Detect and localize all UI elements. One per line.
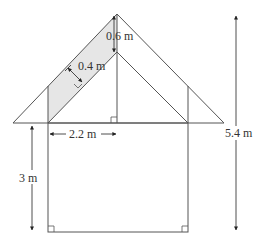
- house-diagram: 0.6 m 0.4 m 2.2 m 3 m 5.4 m: [0, 0, 258, 237]
- label-half-span: 2.2 m: [69, 127, 97, 141]
- label-roof-gap: 0.6 m: [106, 29, 134, 43]
- right-angle-marker-bottom-left: [48, 226, 54, 232]
- label-rafter-width: 0.4 m: [78, 59, 106, 73]
- label-total-height: 5.4 m: [225, 126, 253, 140]
- label-wall-height: 3 m: [19, 171, 38, 185]
- right-angle-marker-center: [111, 117, 117, 123]
- right-angle-marker-bottom-right: [182, 226, 188, 232]
